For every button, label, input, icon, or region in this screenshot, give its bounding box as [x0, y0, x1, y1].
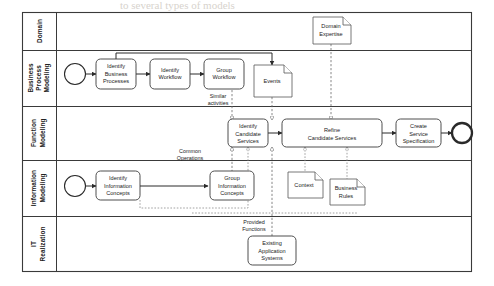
bpmn-diagram: Domain Business Process Modeling Functio… [0, 0, 494, 286]
common-operations-line2: Operations [177, 155, 204, 161]
provided-functions-line2: Functions [242, 226, 266, 232]
task-iic-line2: Information [104, 183, 132, 189]
lane-label-function-modeling: Function Modeling [30, 119, 47, 148]
task-css-line2: Service [409, 131, 428, 137]
task-group-information-concepts[interactable]: Group Information Concepts [210, 171, 254, 200]
task-iw-line1: Identify [161, 67, 179, 73]
artifact-events[interactable]: Events [254, 65, 292, 97]
task-ibp-line3: Processes [103, 78, 129, 84]
artifact-business-rules[interactable]: Business Rules [330, 179, 365, 205]
start-event-bpm[interactable] [65, 64, 86, 85]
artifact-domain-expertise[interactable]: Domain Expertise [313, 17, 351, 44]
task-identify-information-concepts[interactable]: Identify Information Concepts [96, 171, 140, 200]
lane-label-itr-line2: Realization [39, 227, 46, 262]
task-iw-line2: Workflow [159, 74, 183, 80]
task-gw-line2: Workflow [213, 74, 237, 80]
similar-activities-line2: activities [208, 100, 229, 106]
task-existing-application-systems[interactable]: Existing Application Systems [248, 236, 296, 265]
artifact-de-line2: Expertise [319, 31, 342, 37]
lane-label-im-line1: Information [30, 170, 37, 206]
lane-label-bpm-line1: Business [27, 63, 34, 93]
task-rcs-line2: Candidate Services [308, 135, 357, 141]
artifact-br-line2: Rules [339, 193, 354, 199]
start-event-im[interactable] [65, 176, 86, 197]
task-eas-line2: Application [258, 248, 285, 254]
task-refine-candidate-services[interactable]: Refine Candidate Services [282, 119, 382, 147]
similar-activities-line1: Similar [210, 93, 227, 99]
task-gic-line2: Information [218, 183, 246, 189]
task-eas-line1: Existing [262, 240, 282, 246]
flow-ibp-to-events-rail [116, 53, 272, 65]
artifact-context-label: Context [294, 182, 314, 188]
task-iic-line1: Identify [109, 175, 127, 181]
lane-label-domain-text: Domain [36, 19, 43, 43]
common-operations-line1: Common [179, 148, 201, 154]
task-eas-line3: Systems [261, 255, 283, 261]
task-css-line1: Create [410, 123, 427, 129]
lane-label-information-modeling: Information Modeling [30, 170, 47, 206]
task-ibp-line1: Identify [107, 63, 125, 69]
flow-label-similar-activities: Similar activities [208, 93, 229, 106]
lane-label-fm-line2: Modeling [39, 119, 47, 148]
lane-label-fm-line1: Function [30, 119, 37, 147]
task-iic-line3: Concepts [106, 190, 130, 196]
task-identify-business-processes[interactable]: Identify Business Processes [96, 59, 136, 89]
task-group-workflow[interactable]: Group Workflow [204, 59, 244, 89]
end-event-fm[interactable] [452, 123, 472, 143]
task-ibp-line2: Business [105, 71, 128, 77]
task-gw-line1: Group [216, 67, 232, 73]
task-identify-workflow[interactable]: Identify Workflow [150, 59, 190, 89]
lane-label-itr-line1: IT [30, 241, 37, 247]
artifact-context[interactable]: Context [288, 172, 323, 198]
flow-label-provided-functions: Provided Functions [242, 219, 266, 232]
task-identify-candidate-services[interactable]: Identify Candidate Services [228, 119, 268, 147]
lane-label-im-line2: Modeling [39, 174, 47, 203]
artifact-br-line1: Business [335, 185, 358, 191]
artifact-de-line1: Domain [321, 23, 340, 29]
lane-label-bpm-line2: Process [35, 65, 42, 91]
lane-label-bpm-line3: Modeling [43, 64, 51, 93]
lane-label-it-realization: IT Realization [30, 227, 46, 262]
lane-label-business-process-modeling: Business Process Modeling [27, 63, 51, 93]
task-ics-line3: Services [237, 138, 259, 144]
provided-functions-line1: Provided [243, 219, 264, 225]
task-create-service-specification[interactable]: Create Service Specification [396, 119, 441, 147]
task-ics-line2: Candidate [235, 131, 261, 137]
lane-label-domain: Domain [36, 19, 43, 43]
artifact-events-label: Events [263, 78, 280, 84]
task-gic-line3: Concepts [220, 190, 244, 196]
task-rcs-line1: Refine [324, 127, 340, 133]
task-ics-line1: Identify [239, 123, 257, 129]
task-css-line3: Specification [403, 138, 435, 144]
flow-label-common-operations: Common Operations [177, 148, 204, 161]
task-gic-line1: Group [224, 175, 240, 181]
diagram-canvas: Domain Business Process Modeling Functio… [0, 0, 494, 286]
